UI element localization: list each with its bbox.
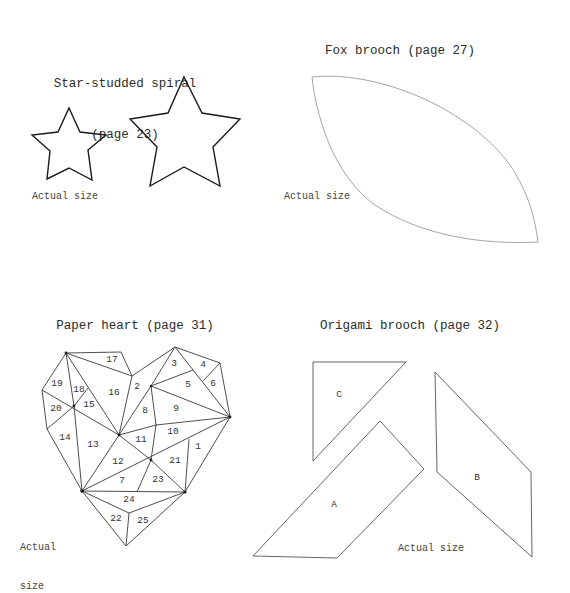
heart-piece-15: 15 xyxy=(83,399,95,410)
heart-piece-18: 18 xyxy=(73,384,85,395)
heart-piece-20: 20 xyxy=(50,403,62,414)
heart-piece-numbers: 1 2 3 4 5 6 7 8 9 10 11 12 13 14 15 16 1… xyxy=(50,354,216,526)
heart-piece-3: 3 xyxy=(171,358,177,369)
heart-piece-23: 23 xyxy=(152,474,164,485)
heart-piece-6: 6 xyxy=(210,378,216,389)
heart-piece-12: 12 xyxy=(112,456,124,467)
heart-piece-21: 21 xyxy=(169,455,181,466)
heart-note-line2: size xyxy=(20,580,56,593)
heart-piece-5: 5 xyxy=(185,379,191,390)
heart-piece-22: 22 xyxy=(110,513,122,524)
origami-label-c: C xyxy=(336,389,342,400)
heart-piece-19: 19 xyxy=(51,378,63,389)
origami-piece-a-shape xyxy=(253,421,424,558)
origami-pieces xyxy=(253,362,532,558)
origami-label-b: B xyxy=(474,472,480,483)
heart-piece-14: 14 xyxy=(59,432,71,443)
origami-piece-c-shape xyxy=(313,362,406,461)
paper-heart-shape xyxy=(42,347,230,546)
heart-piece-24: 24 xyxy=(123,494,135,505)
heart-piece-2: 2 xyxy=(134,381,140,392)
heart-piece-13: 13 xyxy=(87,439,99,450)
heart-piece-11: 11 xyxy=(135,434,147,445)
heart-piece-1: 1 xyxy=(195,441,201,452)
large-star-shape xyxy=(130,77,240,186)
heart-piece-10: 10 xyxy=(167,426,179,437)
heart-piece-8: 8 xyxy=(142,405,148,416)
small-star-shape xyxy=(32,108,106,180)
origami-piece-b-shape xyxy=(435,372,532,557)
heart-piece-16: 16 xyxy=(108,387,120,398)
heart-piece-9: 9 xyxy=(173,403,179,414)
heart-piece-17: 17 xyxy=(106,354,117,365)
heart-piece-4: 4 xyxy=(200,359,206,370)
heart-piece-25: 25 xyxy=(137,515,149,526)
origami-label-a: A xyxy=(331,499,337,510)
heart-piece-7: 7 xyxy=(119,475,125,486)
fox-leaf-shape xyxy=(312,76,538,242)
heart-vertex-dots xyxy=(65,352,232,494)
